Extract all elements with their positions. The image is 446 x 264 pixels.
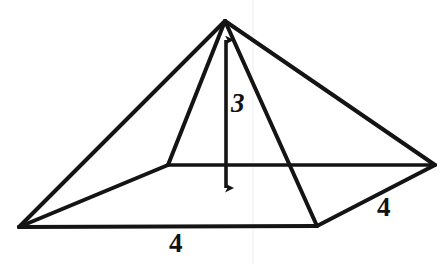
edge-apex-to-base-left <box>19 21 225 227</box>
edge-base-left-to-base-front <box>19 226 317 227</box>
edge-base-front-to-base-right <box>317 165 435 226</box>
pyramid-diagram <box>0 0 446 264</box>
base-right-length-label: 4 <box>377 194 391 221</box>
edge-apex-to-base-back <box>168 21 225 165</box>
height-label: 3 <box>231 90 245 117</box>
pyramid-figure: 3 4 4 <box>0 0 446 264</box>
edge-base-back-to-base-left <box>19 165 168 227</box>
base-front-length-label: 4 <box>169 230 183 257</box>
